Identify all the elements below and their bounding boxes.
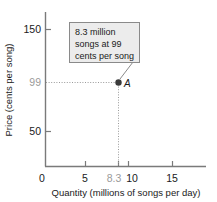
point-a-marker [115, 79, 121, 85]
y-tick-labels: 150 99 50 [23, 23, 41, 137]
y-axis-title: Price (cents per song) [3, 44, 14, 137]
y-tick-label-150: 150 [23, 23, 41, 35]
x-tick-label-10: 10 [126, 172, 138, 184]
y-axis-ticks [46, 30, 52, 132]
x-tick-label-8-3: 8.3 [107, 172, 122, 184]
point-a-callout: 8.3 million songs at 99 cents per song [70, 23, 140, 63]
chart-figure: 8.3 million songs at 99 cents per song A… [0, 0, 217, 202]
price-quantity-scatter-chart: 8.3 million songs at 99 cents per song A… [0, 0, 217, 202]
y-tick-label-50: 50 [29, 125, 41, 137]
callout-line-1: 8.3 million [75, 27, 116, 37]
x-axis-title: Quantity (millions of songs per day) [52, 187, 201, 198]
callout-leader-line [120, 62, 133, 79]
callout-line-3: cents per song [75, 51, 134, 61]
x-tick-label-5: 5 [82, 172, 88, 184]
point-a-label: A [123, 78, 131, 89]
x-axis-ticks [86, 161, 173, 167]
x-tick-label-0: 0 [39, 172, 45, 184]
x-tick-labels: 0 5 8.3 10 15 [39, 172, 178, 184]
x-tick-label-15: 15 [166, 172, 178, 184]
guide-lines-group [46, 83, 119, 166]
y-tick-label-99: 99 [29, 76, 41, 88]
data-point-a: A [115, 78, 131, 89]
callout-line-2: songs at 99 [75, 39, 122, 49]
